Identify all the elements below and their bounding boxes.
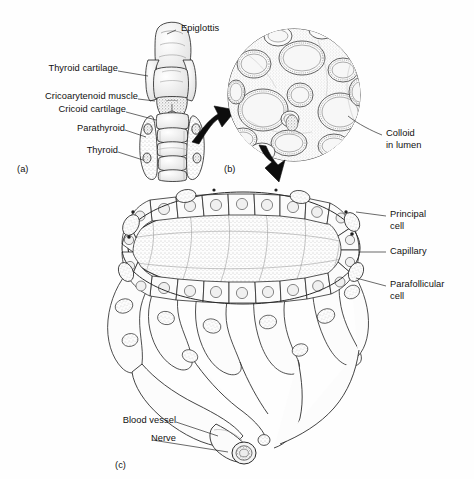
label-principal-cell-line1: Principal [390, 209, 426, 220]
label-epiglottis: Epiglottis [181, 23, 219, 34]
thyroid-cartilage-body [154, 67, 189, 100]
label-colloid-in-lumen-line2: in lumen [386, 140, 422, 151]
thyroid-figure: Thyroid cartilage Cricoarytenoid muscle … [0, 0, 474, 479]
panel-c-tag: (c) [115, 460, 126, 470]
parathyroid-gland-upper-left [144, 124, 152, 134]
nerve-cut-end [258, 435, 270, 446]
label-blood-vessel: Blood vessel [104, 415, 176, 426]
label-nerve: Nerve [108, 433, 176, 444]
label-cricoarytenoid-muscle: Cricoarytenoid muscle [2, 91, 138, 102]
parathyroid-gland-lower-left [143, 153, 151, 163]
trachea-rings [157, 128, 188, 182]
label-thyroid-cartilage: Thyroid cartilage [24, 63, 118, 74]
c-cell-nest [286, 115, 298, 131]
panel-b-tag: (b) [224, 164, 236, 174]
panel-a-tag: (a) [17, 164, 29, 174]
parathyroid-gland-lower-right [193, 153, 201, 163]
label-parafollicular-cell-line2: cell [390, 291, 404, 302]
label-capillary: Capillary [390, 246, 427, 257]
label-parathyroid: Parathyroid [44, 123, 125, 134]
label-colloid-in-lumen-line1: Colloid [386, 128, 415, 139]
label-principal-cell-line2: cell [390, 221, 404, 232]
label-parafollicular-cell-line1: Parafollicular [390, 279, 444, 290]
label-cricoid-cartilage: Cricoid cartilage [18, 104, 126, 115]
label-thyroid: Thyroid [62, 145, 118, 156]
